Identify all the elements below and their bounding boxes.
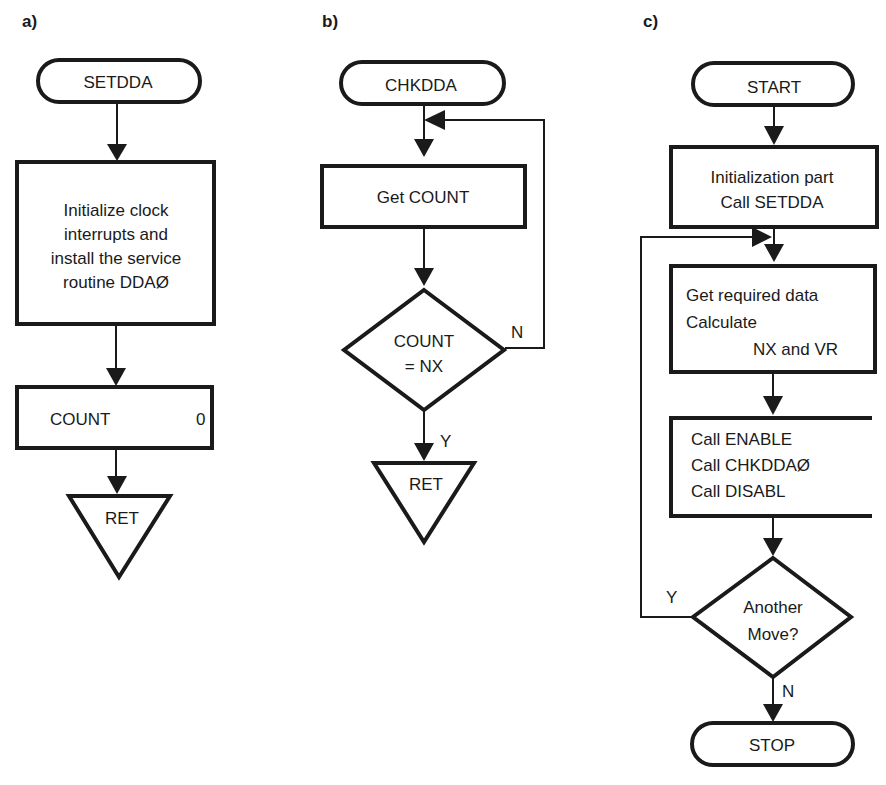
flowchart-canvas: a) SETDDA Initialize clock interrupts an… xyxy=(0,0,886,785)
setdda-start-text: SETDDA xyxy=(84,73,154,92)
no-branch-label: N xyxy=(511,323,523,342)
assign-left-text: COUNT xyxy=(50,410,110,429)
calls-line-3: Call DISABL xyxy=(691,482,785,501)
process-line-3: install the service xyxy=(51,249,181,268)
decision-line-1: COUNT xyxy=(394,332,454,351)
stop-text: STOP xyxy=(749,736,795,755)
chkdda-start-text: CHKDDA xyxy=(385,76,457,95)
process-line-1: Initialize clock xyxy=(64,201,169,220)
data-line-2: Calculate xyxy=(686,313,757,332)
ret-text: RET xyxy=(409,475,443,494)
data-line-1: Get required data xyxy=(686,286,819,305)
panel-c-label: c) xyxy=(643,12,658,31)
assign-right-text: 0 xyxy=(196,410,205,429)
calls-line-1: Call ENABLE xyxy=(691,430,792,449)
arrow-down-icon xyxy=(764,244,784,262)
process-line-4: routine DDAØ xyxy=(63,273,169,292)
yes-branch-label: Y xyxy=(666,588,677,607)
panel-a-label: a) xyxy=(22,12,37,31)
start-text: START xyxy=(747,78,801,97)
init-line-2: Call SETDDA xyxy=(721,193,825,212)
ret-text: RET xyxy=(105,509,139,528)
no-branch-label: N xyxy=(782,682,794,701)
another-move-decision xyxy=(693,558,851,677)
count-assign-process xyxy=(17,387,212,448)
arrow-down-icon xyxy=(107,476,127,494)
arrow-down-icon xyxy=(414,268,434,286)
panel-b-label: b) xyxy=(322,12,338,31)
panel-a: a) SETDDA Initialize clock interrupts an… xyxy=(17,12,214,577)
arrow-down-icon xyxy=(764,126,784,145)
arrow-down-icon xyxy=(763,704,783,722)
panel-b: b) CHKDDA Get COUNT COUNT = NX N Y RET xyxy=(322,12,544,542)
initialization-process xyxy=(671,147,877,227)
arrow-down-icon xyxy=(107,144,127,161)
decision-line-1: Another xyxy=(743,598,803,617)
calls-line-2: Call CHKDDAØ xyxy=(691,456,810,475)
get-count-text: Get COUNT xyxy=(377,188,470,207)
data-line-3: NX and VR xyxy=(753,340,838,359)
arrow-down-icon xyxy=(414,443,434,461)
arrow-down-icon xyxy=(763,538,783,556)
panel-c: c) START Initialization part Call SETDDA… xyxy=(641,12,877,765)
yes-branch-label: Y xyxy=(440,432,451,451)
decision-line-2: = NX xyxy=(405,357,443,376)
arrow-down-icon xyxy=(106,368,126,386)
init-line-1: Initialization part xyxy=(711,168,834,187)
decision-line-2: Move? xyxy=(747,625,798,644)
arrow-left-icon xyxy=(424,110,445,130)
arrow-down-icon xyxy=(414,139,434,157)
process-line-2: interrupts and xyxy=(64,225,168,244)
arrow-down-icon xyxy=(763,396,783,415)
